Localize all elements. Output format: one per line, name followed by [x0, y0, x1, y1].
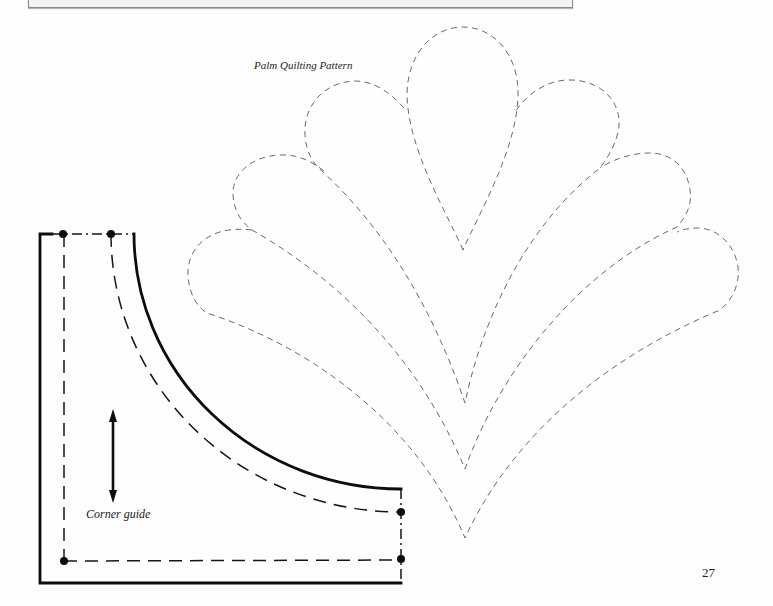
illustration-canvas: Palm Quilting Pattern: [0, 0, 773, 606]
corner-guide-label: Corner guide: [86, 507, 151, 521]
page-number: 27: [702, 565, 716, 580]
palm-quilting-pattern: Palm Quilting Pattern: [188, 27, 738, 538]
upper-leaf-pair-outline: [305, 80, 619, 403]
dot-marker-icon: [59, 230, 67, 238]
corner-guide-curved-seam-line: [111, 234, 401, 512]
corner-guide-bottom-seam-line: [64, 560, 401, 561]
double-headed-arrow-icon: [109, 409, 117, 503]
dot-marker-icon: [107, 230, 115, 238]
corner-guide-curved-edge: [134, 234, 401, 489]
dot-marker-icon: [397, 508, 405, 516]
book-page: Palm Quilting Pattern: [0, 0, 773, 606]
corner-guide-outer-edge: [40, 234, 401, 583]
center-leaf-outline: [407, 27, 518, 250]
dot-marker-icon: [397, 555, 405, 563]
pattern-title: Palm Quilting Pattern: [253, 59, 353, 71]
middle-leaf-pair-outline: [233, 153, 691, 469]
corner-guide-template: Corner guide: [40, 230, 405, 583]
dot-marker-icon: [60, 557, 68, 565]
lower-leaf-pair-outline: [188, 228, 738, 538]
